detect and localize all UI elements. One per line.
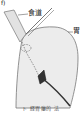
esophagus-leader [18,14,28,15]
anatomy-diagram: f) 食道 胃 ト 経胃瘻的 法 [0,0,84,114]
stomach-shape [16,27,78,108]
figure-caption: ト 経胃瘻的 法 [22,106,59,111]
stomach-label: 胃 [73,28,80,35]
esophagus-shape [4,10,26,42]
panel-label: f) [1,0,5,6]
esophagus-label: 食道 [28,10,42,17]
stomach-illustration [0,0,84,114]
